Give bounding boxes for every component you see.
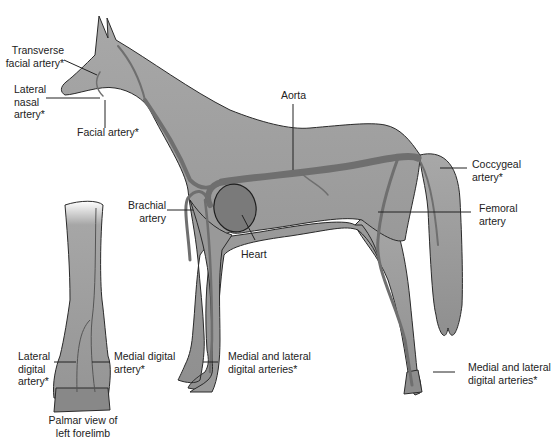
label-femoral-artery: Femoral artery (479, 202, 518, 227)
label-heart: Heart (241, 248, 267, 261)
label-transverse-facial-artery: Transverse facial artery* (2, 44, 64, 69)
palmar-view-inset (53, 201, 110, 412)
label-facial-artery: Facial artery* (77, 126, 139, 139)
tail (420, 154, 462, 336)
label-hind-digital-arteries: Medial and lateral digital arteries* (468, 361, 551, 386)
label-medial-digital-artery: Medial digital artery* (114, 350, 175, 375)
label-fore-digital-arteries: Medial and lateral digital arteries* (228, 350, 311, 375)
label-brachial-artery: Brachial artery (112, 199, 166, 224)
caption-palmar-view: Palmar view of left forelimb (36, 414, 130, 439)
label-lateral-nasal-artery: Lateral nasal artery* (14, 83, 46, 121)
label-aorta: Aorta (281, 89, 306, 102)
label-lateral-digital-artery: Lateral digital artery* (18, 350, 50, 388)
label-coccygeal-artery: Coccygeal artery* (472, 158, 521, 183)
horse-artery-diagram: Transverse facial artery* Lateral nasal … (0, 0, 555, 441)
